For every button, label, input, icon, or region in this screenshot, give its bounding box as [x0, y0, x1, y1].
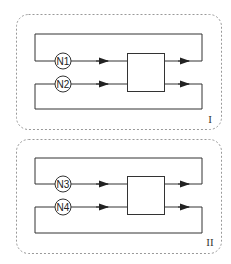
- diagram-canvas: N1 N2 I N3 N4 II: [0, 0, 231, 264]
- panel-1-process-box: [128, 54, 165, 92]
- node-n4-label: N4: [57, 202, 70, 213]
- node-n1: N1: [55, 53, 71, 69]
- node-n2-label: N2: [57, 79, 70, 90]
- node-n2: N2: [55, 76, 71, 92]
- node-n4: N4: [55, 199, 71, 215]
- panel-2-process-box: [128, 177, 165, 215]
- panel-2: N3 N4 II: [17, 140, 222, 254]
- panel-2-dashed-border: [17, 140, 222, 254]
- node-n3: N3: [55, 176, 71, 192]
- node-n1-label: N1: [57, 56, 70, 67]
- panel-2-label: II: [206, 236, 214, 248]
- node-n3-label: N3: [57, 179, 70, 190]
- panel-1: N1 N2 I: [17, 15, 222, 130]
- panel-1-dashed-border: [17, 15, 222, 130]
- panel-1-label: I: [208, 113, 212, 125]
